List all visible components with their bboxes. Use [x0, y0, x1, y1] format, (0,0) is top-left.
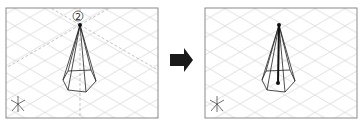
base-center-point — [276, 81, 280, 85]
figure-canvas: 2 — [0, 0, 363, 122]
center-axis-line — [278, 25, 279, 83]
isometric-grid — [205, 8, 357, 118]
viewport-after — [205, 8, 357, 118]
step-marker: 2 — [73, 11, 83, 22]
right-arrow-icon — [170, 48, 193, 72]
apex-point — [277, 23, 281, 27]
isometric-grid — [6, 8, 158, 118]
viewport-before: 2 — [6, 0, 158, 118]
apex-point — [78, 23, 82, 27]
step-marker-label: 2 — [75, 12, 81, 22]
